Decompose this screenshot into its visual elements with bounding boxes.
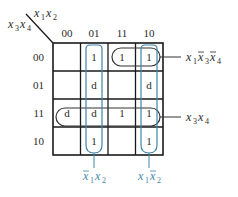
- col-header-01: 01: [89, 27, 100, 39]
- col-variable-label: x 1 x 2: [33, 6, 57, 22]
- cell-00-01: 1: [91, 51, 97, 63]
- svg-text:3: 3: [193, 117, 197, 126]
- col-header-10: 10: [144, 27, 156, 39]
- row-header-10: 10: [33, 135, 45, 147]
- svg-text:x: x: [185, 110, 192, 124]
- cell-11-10: 1: [146, 107, 152, 119]
- col-header-11: 11: [117, 27, 128, 39]
- cell-10-10: 1: [146, 135, 152, 147]
- group-label-x1bar-x2: x 1 x 2: [82, 169, 106, 185]
- cell-11-01: d: [91, 107, 97, 119]
- cell-01-01: d: [91, 79, 97, 91]
- col-header-00: 00: [62, 27, 74, 39]
- group-label-x1-x3bar-x4bar: x 1 x 3 x 4: [185, 50, 221, 66]
- svg-text:x: x: [197, 110, 204, 124]
- svg-text:4: 4: [217, 57, 221, 66]
- svg-text:x: x: [45, 6, 52, 20]
- row-header-00: 00: [33, 51, 45, 63]
- svg-text:1: 1: [145, 176, 149, 185]
- cell-11-00: d: [64, 107, 70, 119]
- cell-00-10: 1: [146, 51, 152, 63]
- svg-text:x: x: [7, 17, 14, 31]
- svg-text:1: 1: [90, 176, 94, 185]
- svg-text:x: x: [33, 6, 40, 20]
- svg-text:4: 4: [27, 24, 31, 33]
- cell-11-11: 1: [119, 107, 125, 119]
- cell-01-10: d: [146, 79, 152, 91]
- svg-text:3: 3: [15, 24, 19, 33]
- svg-text:1: 1: [41, 13, 45, 22]
- svg-text:4: 4: [205, 117, 209, 126]
- row-variable-label: x 3 x 4: [7, 17, 31, 33]
- svg-text:x: x: [19, 17, 26, 31]
- cell-10-01: 1: [91, 135, 97, 147]
- group-label-x3-x4: x 3 x 4: [185, 110, 209, 126]
- svg-text:x: x: [185, 50, 192, 64]
- svg-text:x: x: [137, 169, 144, 183]
- group-label-x1-x2bar: x 1 x 2: [137, 169, 161, 185]
- svg-text:3: 3: [205, 57, 209, 66]
- row-header-11: 11: [33, 107, 44, 119]
- row-header-01: 01: [33, 79, 44, 91]
- row-headers: 00 01 11 10: [33, 51, 45, 147]
- svg-text:1: 1: [193, 57, 197, 66]
- svg-text:x: x: [94, 169, 101, 183]
- column-headers: 00 01 11 10: [62, 27, 156, 39]
- svg-text:2: 2: [157, 176, 161, 185]
- svg-text:2: 2: [53, 13, 57, 22]
- cell-00-11: 1: [119, 51, 125, 63]
- karnaugh-map: x 1 x 2 x 3 x 4 00 01 11 10 00 01 11 10 …: [0, 0, 238, 197]
- svg-text:2: 2: [102, 176, 106, 185]
